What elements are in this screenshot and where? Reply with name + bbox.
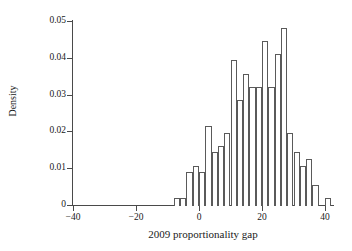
x-tick-label: 0 [179,212,219,222]
y-tick-mark [67,131,72,132]
x-tick-mark [325,206,326,211]
x-tick-label: 20 [242,212,282,222]
y-tick-label-holder: 0.01 [26,163,66,173]
y-tick-label-holder: 0 [26,200,66,210]
x-tick-label: −40 [53,212,93,222]
y-axis-title: Density [8,66,18,136]
y-tick-label: 0.04 [30,53,66,63]
y-axis-line [72,20,73,206]
histogram-bar [312,185,318,206]
x-tick-label: 40 [305,212,345,222]
y-tick-mark [67,205,72,206]
y-tick-label: 0.05 [30,16,66,26]
y-tick-mark [67,95,72,96]
x-tick-mark [199,206,200,211]
y-tick-mark [67,168,72,169]
x-tick-mark [262,206,263,211]
x-axis-title: 2009 proportionality gap [72,228,334,240]
x-tick-mark [73,206,74,211]
x-tick-mark [136,206,137,211]
y-tick-label-holder: 0.02 [26,126,66,136]
y-tick-label-holder: 0.03 [26,90,66,100]
y-tick-label-holder: 0.04 [26,53,66,63]
y-tick-mark [67,58,72,59]
histogram-bar [325,198,331,206]
y-tick-label: 0.02 [30,126,66,136]
y-tick-label-holder: 0.05 [26,16,66,26]
histogram-figure: 00.010.020.030.040.05 −40−2002040 Densit… [0,0,352,251]
y-tick-label: 0.03 [30,90,66,100]
y-tick-label: 0 [30,200,66,210]
y-tick-mark [67,21,72,22]
y-tick-label: 0.01 [30,163,66,173]
x-tick-label: −20 [116,212,156,222]
plot-area: 00.010.020.030.040.05 −40−2002040 Densit… [0,0,352,251]
